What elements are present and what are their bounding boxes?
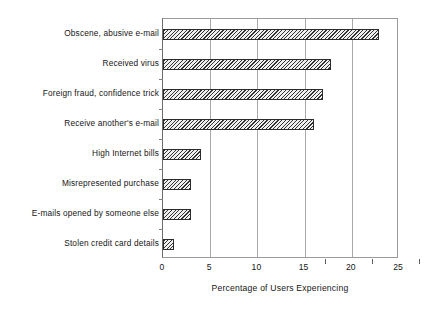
bar: [163, 209, 191, 220]
x-tick-label: 25: [393, 262, 403, 272]
x-axis-tick-10: [419, 259, 420, 264]
category-axis-labels: Obscene, abusive e-mailReceived virusFor…: [0, 0, 159, 311]
y-axis-tick: [159, 79, 163, 80]
x-tick-label: 5: [207, 262, 212, 272]
gridline-10: [257, 19, 258, 257]
category-label: Obscene, abusive e-mail: [64, 27, 159, 39]
category-label: Misrepresented purchase: [62, 177, 159, 189]
x-axis-tick-0: [325, 259, 326, 264]
y-axis-tick: [159, 229, 163, 230]
x-tick-label: 15: [299, 262, 309, 272]
gridline-20: [352, 19, 353, 257]
category-label: Stolen credit card details: [64, 237, 159, 249]
bar-chart: Obscene, abusive e-mailReceived virusFor…: [0, 0, 428, 311]
bar: [163, 89, 323, 100]
x-axis-title: Percentage of Users Experiencing: [162, 283, 398, 293]
plot-area: [162, 18, 398, 258]
category-label: E-mails opened by someone else: [32, 207, 159, 219]
x-tick-label: 10: [252, 262, 262, 272]
y-axis-tick: [159, 169, 163, 170]
bar: [163, 59, 331, 70]
y-axis-tick: [159, 109, 163, 110]
bar: [163, 239, 174, 250]
bar: [163, 29, 379, 40]
category-label: Foreign fraud, confidence trick: [43, 87, 159, 99]
gridline-15: [305, 19, 306, 257]
category-label: Receive another's e-mail: [64, 117, 159, 129]
y-axis-tick: [159, 49, 163, 50]
x-axis-tick-5: [372, 259, 373, 264]
y-axis-tick: [159, 199, 163, 200]
y-axis-tick: [159, 139, 163, 140]
x-tick-label: 0: [160, 262, 165, 272]
category-label: Received virus: [102, 57, 159, 69]
bar: [163, 179, 191, 190]
category-label: High Internet bills: [92, 147, 159, 159]
bar: [163, 119, 314, 130]
bar: [163, 149, 201, 160]
gridline-5: [210, 19, 211, 257]
x-tick-label: 20: [346, 262, 356, 272]
